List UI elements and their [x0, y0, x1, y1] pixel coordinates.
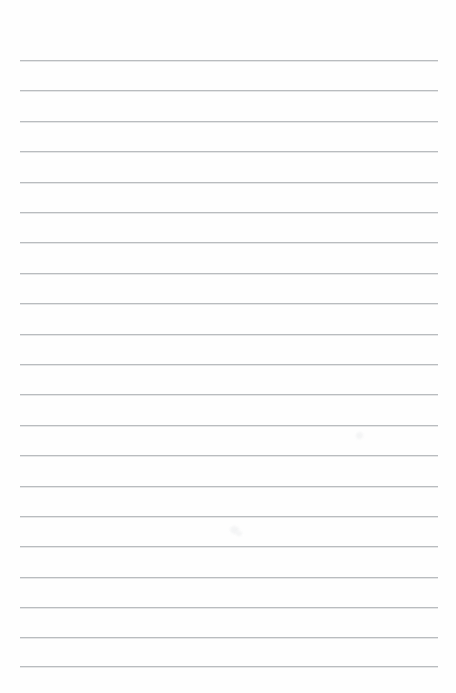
rule-line — [20, 577, 438, 578]
rule-line — [20, 425, 438, 426]
rule-line — [20, 273, 438, 274]
ruled-writing-area — [0, 0, 456, 693]
scan-blemish — [356, 432, 363, 439]
rule-line — [20, 121, 438, 122]
rule-line — [20, 182, 438, 183]
rule-line — [20, 90, 438, 91]
rule-line — [20, 666, 438, 667]
scan-blemish — [236, 531, 242, 536]
scanned-page — [0, 0, 456, 693]
rule-line — [20, 546, 438, 547]
rule-line — [20, 455, 438, 456]
rule-line — [20, 242, 438, 243]
rule-line — [20, 394, 438, 395]
rule-line — [20, 637, 438, 638]
rule-line — [20, 334, 438, 335]
rule-line — [20, 60, 438, 61]
rule-line — [20, 486, 438, 487]
rule-line — [20, 303, 438, 304]
rule-line — [20, 212, 438, 213]
rule-line — [20, 607, 438, 608]
rule-line — [20, 364, 438, 365]
rule-line — [20, 516, 438, 517]
rule-line — [20, 151, 438, 152]
